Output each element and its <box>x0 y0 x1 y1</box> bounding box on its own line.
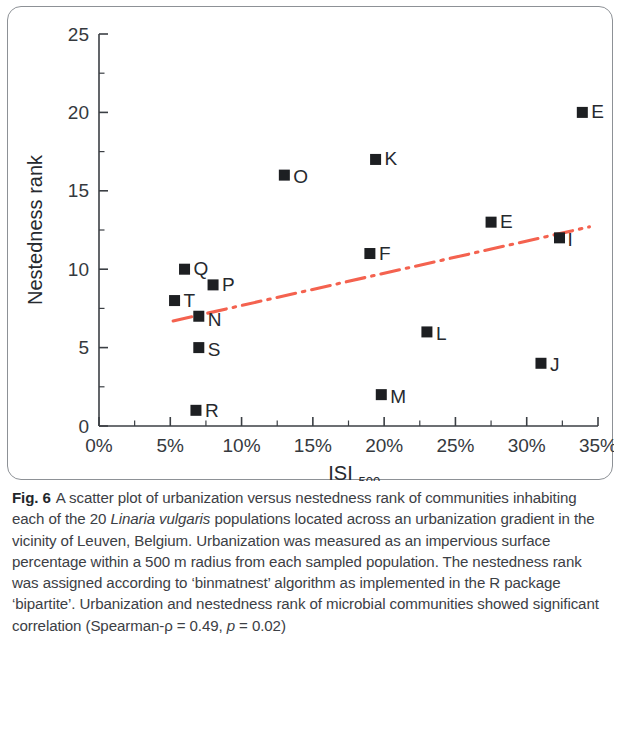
data-point-label: J <box>550 354 560 375</box>
y-tick-label: 15 <box>68 180 89 201</box>
data-point-marker <box>486 217 497 228</box>
x-tick-label: 15% <box>294 435 332 456</box>
x-tick-label: 0% <box>85 435 113 456</box>
data-point-marker <box>577 107 588 118</box>
data-point: F <box>364 243 390 264</box>
data-point-label: I <box>568 229 573 250</box>
data-point-marker <box>193 311 204 322</box>
data-point-marker <box>370 154 381 165</box>
data-point-label: Q <box>194 258 209 279</box>
x-tick-label: 5% <box>157 435 185 456</box>
y-tick-label: 25 <box>68 24 89 45</box>
scatter-plot: 05101520250%5%10%15%20%25%30%35%Nestedne… <box>8 7 614 481</box>
x-tick-label: 20% <box>365 435 403 456</box>
caption-p-italic: p <box>227 617 235 634</box>
data-point: T <box>169 290 196 311</box>
x-tick-label: 25% <box>436 435 474 456</box>
data-point: E <box>577 101 604 122</box>
x-axis-title-subscript: 500 <box>359 474 381 481</box>
figure-caption: Fig. 6A scatter plot of urbanization ver… <box>12 487 612 636</box>
data-point-label: R <box>205 400 219 421</box>
figure-number: Fig. 6 <box>12 489 51 506</box>
data-point: O <box>279 166 308 187</box>
data-point-label: N <box>208 309 222 330</box>
data-point: M <box>376 386 406 407</box>
data-point-label: O <box>293 166 308 187</box>
data-point-marker <box>554 232 565 243</box>
y-tick-label: 0 <box>78 416 89 437</box>
data-point-marker <box>169 295 180 306</box>
data-point-label: K <box>385 148 398 169</box>
data-point-label: P <box>222 274 235 295</box>
figure-container: 05101520250%5%10%15%20%25%30%35%Nestedne… <box>0 0 621 730</box>
y-tick-label: 20 <box>68 102 89 123</box>
y-axis-title: Nestedness rank <box>24 154 46 305</box>
caption-species-name: Linaria vulgaris <box>110 510 210 527</box>
data-point-label: E <box>591 101 604 122</box>
caption-text-part3: = 0.02) <box>235 617 286 634</box>
x-axis-title: ISI <box>328 462 352 481</box>
data-point-label: S <box>208 339 221 360</box>
data-point-marker <box>421 326 432 337</box>
data-point-marker <box>279 170 290 181</box>
x-tick-label: 35% <box>579 435 614 456</box>
data-point-label: L <box>436 323 447 344</box>
data-point-label: T <box>184 290 196 311</box>
data-point: L <box>421 323 446 344</box>
x-axis-title-group: ISI500 <box>328 462 380 481</box>
data-point-marker <box>179 264 190 275</box>
data-point: K <box>370 148 398 169</box>
data-point: R <box>190 400 218 421</box>
data-point-marker <box>190 405 201 416</box>
y-tick-label: 5 <box>78 337 89 358</box>
data-point: J <box>535 354 559 375</box>
data-point-marker <box>535 358 546 369</box>
data-point-label: M <box>390 386 406 407</box>
data-point-marker <box>364 248 375 259</box>
caption-text-part2: populations located across an urbanizati… <box>12 510 599 633</box>
data-point-marker <box>193 342 204 353</box>
data-point: E <box>486 211 513 232</box>
x-tick-label: 10% <box>223 435 261 456</box>
data-point: S <box>193 339 220 360</box>
data-point: Q <box>179 258 208 279</box>
data-point-label: F <box>379 243 391 264</box>
data-point-label: E <box>500 211 513 232</box>
data-point: P <box>208 274 235 295</box>
data-point-marker <box>376 389 387 400</box>
data-point: N <box>193 309 221 330</box>
x-tick-label: 30% <box>508 435 546 456</box>
data-point-marker <box>208 279 219 290</box>
trend-line <box>173 227 589 321</box>
plot-panel-frame: 05101520250%5%10%15%20%25%30%35%Nestedne… <box>7 6 613 480</box>
y-tick-label: 10 <box>68 259 89 280</box>
